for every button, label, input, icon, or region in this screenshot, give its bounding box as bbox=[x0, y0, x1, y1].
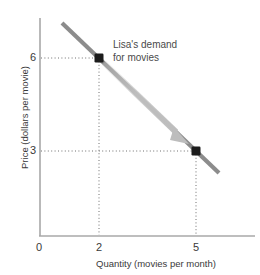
demand-curve-figure: 6 3 0 2 5 Quantity (movies per month) Pr… bbox=[0, 0, 260, 275]
demand-curve-label: Lisa's demand for movies bbox=[113, 39, 177, 64]
y-axis-title: Price (dollars per movie) bbox=[19, 48, 30, 188]
data-point-5-3 bbox=[192, 147, 201, 156]
x-tick-label-0: 0 bbox=[32, 241, 46, 253]
data-point-2-6 bbox=[95, 54, 104, 63]
x-axis-title: Quantity (movies per month) bbox=[96, 258, 216, 269]
demand-curve-label-line2: for movies bbox=[113, 52, 177, 65]
demand-curve-label-line1: Lisa's demand bbox=[113, 39, 177, 52]
movement-arrow-icon bbox=[104, 63, 189, 144]
x-tick-label-5: 5 bbox=[189, 241, 203, 253]
x-tick-label-2: 2 bbox=[92, 241, 106, 253]
